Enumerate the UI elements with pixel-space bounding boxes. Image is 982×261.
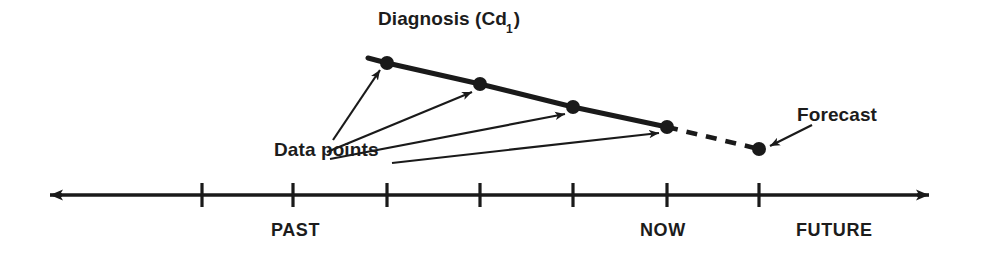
- diagram-title-close: ): [514, 8, 520, 29]
- diagram-title-main: Diagnosis (Cd: [378, 8, 507, 29]
- forecast-point-marker: [752, 142, 766, 156]
- forecast-arrow: [770, 125, 812, 146]
- forecast-pointer-arrow: [770, 125, 812, 146]
- forecast-label: Forecast: [797, 105, 877, 124]
- data-points-arrow-4: [392, 133, 659, 163]
- diagram-title: Diagnosis (Cd1): [378, 9, 520, 32]
- data-points-arrow-1: [333, 70, 380, 140]
- data-point-marker: [566, 100, 580, 114]
- data-point-marker: [473, 77, 487, 91]
- axis-label-past: PAST: [271, 221, 320, 239]
- axis-label-future: FUTURE: [796, 221, 873, 239]
- data-point-marker: [380, 56, 394, 70]
- forecast-line-dashed: [667, 127, 759, 149]
- data-points-label: Data points: [274, 140, 379, 159]
- forecast-series: [667, 127, 766, 156]
- diagram-title-subscript: 1: [506, 22, 513, 36]
- diagram-canvas: Diagnosis (Cd1) Data points Forecast PAS…: [0, 0, 982, 261]
- axis-label-now: NOW: [640, 221, 686, 239]
- time-axis: [50, 183, 929, 207]
